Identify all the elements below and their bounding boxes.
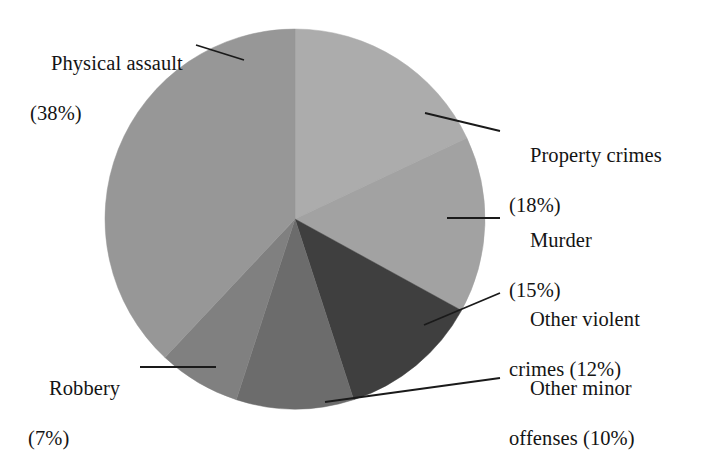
slice-label-murder-line1: Murder [530,229,592,251]
slice-label-physical-assault: Physical assault (38%) [30,26,183,176]
slice-label-other-minor-offenses-line1: Other minor [530,377,632,399]
slice-label-other-minor-offenses-line2: offenses (10%) [509,426,635,451]
slice-label-robbery-line1: Robbery [49,377,120,399]
slice-label-robbery-line2: (7%) [28,426,120,451]
slice-label-physical-assault-line1: Physical assault [51,52,183,74]
slice-label-other-violent-crimes-line1: Other violent [530,308,640,330]
slice-label-physical-assault-line2: (38%) [30,101,183,126]
slice-label-property-crimes-line1: Property crimes [530,144,662,166]
slice-label-robbery: Robbery (7%) [28,351,120,454]
slice-label-other-minor-offenses: Other minor offenses (10%) [509,351,635,454]
